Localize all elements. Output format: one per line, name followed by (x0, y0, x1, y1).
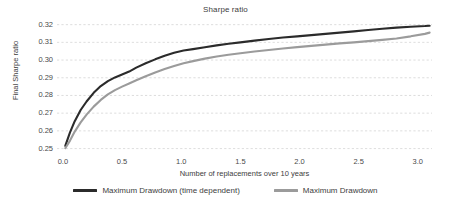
x-tick-label: 1.0 (161, 157, 201, 166)
y-tick-label: 0.30 (25, 56, 53, 64)
y-tick-label: 0.29 (25, 74, 53, 82)
plot-area (57, 22, 432, 153)
y-tick-label: 0.31 (25, 38, 53, 46)
x-axis-title: Number of replacements over 10 years (57, 169, 432, 178)
legend-line-swatch-icon (274, 189, 298, 192)
x-tick-label: 2.0 (280, 157, 320, 166)
y-tick-label: 0.27 (25, 109, 53, 117)
y-tick-label: 0.32 (25, 21, 53, 29)
plot-svg (57, 22, 432, 153)
y-axis-tick-labels: 0.250.260.270.280.290.300.310.32 (23, 22, 53, 153)
legend-label: Maximum Drawdown (303, 186, 378, 195)
y-tick-label: 0.26 (25, 127, 53, 135)
x-axis-tick-labels: 0.00.51.01.52.02.53.0 (57, 157, 432, 169)
legend-entry-1[interactable]: Maximum Drawdown (274, 186, 378, 195)
data-series-group (65, 26, 429, 149)
legend-entry-0[interactable]: Maximum Drawdown (time dependent) (73, 186, 239, 195)
y-axis-title: Final Sharpe ratio (11, 21, 20, 121)
x-tick-label: 2.5 (339, 157, 379, 166)
y-tick-label: 0.25 (25, 145, 53, 153)
sharpe-ratio-chart-figure: Sharpe ratio Final Sharpe ratio 0.250.26… (0, 0, 451, 209)
series-line-0 (65, 26, 429, 146)
x-tick-label: 3.0 (398, 157, 438, 166)
chart-title: Sharpe ratio (0, 5, 451, 14)
legend-line-swatch-icon (73, 189, 97, 192)
x-tick-label: 0.5 (102, 157, 142, 166)
x-tick-label: 1.5 (220, 157, 260, 166)
x-tick-label: 0.0 (43, 157, 83, 166)
y-tick-label: 0.28 (25, 91, 53, 99)
legend-label: Maximum Drawdown (time dependent) (102, 186, 239, 195)
gridlines (57, 25, 432, 149)
chart-legend: Maximum Drawdown (time dependent)Maximum… (0, 186, 451, 195)
